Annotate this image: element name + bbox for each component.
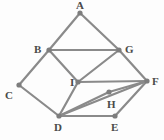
vertex-label-h: H	[107, 99, 116, 110]
graph-vertex-d	[56, 113, 61, 118]
graph-edge-i-f	[78, 81, 147, 82]
graph-vertex-f	[144, 78, 149, 83]
graph-vertex-g	[116, 47, 121, 52]
graph-edge-a-g	[80, 13, 119, 50]
vertex-label-b: B	[34, 44, 41, 55]
vertex-label-e: E	[111, 122, 118, 133]
vertex-label-f: F	[152, 76, 159, 87]
graph-vertex-a	[77, 10, 82, 15]
graph-vertex-i	[75, 79, 80, 84]
edge-layer	[19, 13, 147, 116]
graph-edge-a-b	[49, 13, 80, 50]
vertex-label-c: C	[5, 90, 13, 101]
graph-diagram: ABGCIFHDE	[0, 0, 164, 140]
graph-canvas	[0, 0, 164, 140]
vertex-label-a: A	[76, 0, 84, 11]
graph-edge-i-g	[78, 50, 119, 82]
graph-vertex-h	[106, 89, 111, 94]
vertex-label-g: G	[125, 44, 134, 55]
graph-vertex-e	[112, 113, 117, 118]
graph-edge-b-c	[19, 50, 49, 85]
vertex-label-d: D	[54, 122, 62, 133]
graph-edge-c-d	[19, 85, 59, 116]
graph-vertex-b	[46, 47, 51, 52]
graph-vertex-c	[16, 82, 21, 87]
vertex-label-i: I	[70, 77, 74, 88]
